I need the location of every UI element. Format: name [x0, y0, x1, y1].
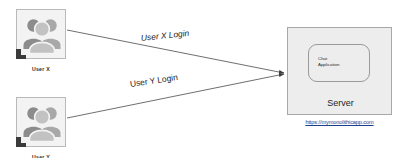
- chat-application-label-line-1: Chat: [318, 56, 327, 61]
- chat-application-box[interactable]: Chat Application: [308, 44, 370, 82]
- user-y-label: User Y: [16, 154, 66, 158]
- server-label: Server: [288, 98, 393, 108]
- node-user-x[interactable]: User X: [16, 9, 68, 72]
- user-x-label: User X: [16, 66, 66, 72]
- chat-application-label-line-2: Application: [318, 62, 339, 67]
- node-user-y[interactable]: User Y: [16, 97, 68, 158]
- people-group-icon: [17, 10, 67, 60]
- people-group-icon: [17, 98, 67, 148]
- server-box[interactable]: Chat Application Server: [287, 27, 392, 115]
- server-url-link[interactable]: https://mymonolithicapp.com: [287, 119, 392, 125]
- user-y-icon-box: [16, 97, 66, 147]
- user-x-icon-box: [16, 9, 66, 59]
- diagram-canvas: User X User Y User X Login User Y Login …: [0, 0, 404, 158]
- chat-application-label: Chat Application: [318, 56, 362, 68]
- user-y-corner-tick-horizontal: [16, 143, 26, 147]
- user-x-corner-tick-horizontal: [16, 55, 26, 59]
